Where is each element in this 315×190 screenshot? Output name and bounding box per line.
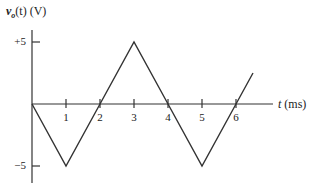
plot-area: 123456 xyxy=(0,0,315,190)
x-tick-label: 6 xyxy=(233,111,239,123)
x-tick-label: 3 xyxy=(131,111,137,123)
triangle-wave-chart: 123456 vo(t) (V) t (ms) +5 −5 xyxy=(0,0,315,190)
x-tick-marks: 123456 xyxy=(63,99,239,123)
x-tick-label: 4 xyxy=(165,111,171,123)
x-tick-label: 2 xyxy=(97,111,103,123)
y-tick-label-plus5: +5 xyxy=(4,35,26,47)
x-axis-label: t (ms) xyxy=(278,97,306,112)
y-tick-label-minus5: −5 xyxy=(4,159,26,171)
x-tick-label: 1 xyxy=(63,111,69,123)
y-axis-label: vo(t) (V) xyxy=(6,4,46,20)
x-tick-label: 5 xyxy=(199,111,205,123)
